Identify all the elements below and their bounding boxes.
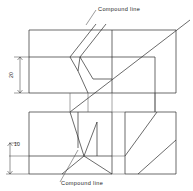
- top-view-compound-edge-c: [70, 57, 78, 71]
- top-view-compound-edge-a: [70, 24, 96, 57]
- dimension-20: 20: [8, 57, 29, 93]
- compound-line-bottom-label: Compound line: [61, 180, 103, 186]
- compound-line-label-top-group: Compound line: [86, 6, 140, 25]
- compound-line-top-label: Compound line: [98, 6, 140, 12]
- top-left-view: [29, 24, 112, 93]
- side-view-compound-edge-a: [125, 112, 157, 156]
- top-view-compound-edge-b: [80, 24, 106, 57]
- orthographic-projection-svg: 20 10 Compound line Compound line: [0, 0, 193, 191]
- top-view-outline: [29, 30, 112, 93]
- bottom-right-view: [125, 112, 176, 174]
- bottom-left-view: [29, 112, 112, 174]
- top-view-compound-edge-e: [80, 57, 93, 79]
- side-view-compound-edge-b: [138, 140, 176, 174]
- dim-20-value: 20: [8, 72, 14, 78]
- compound-line-bottom-leader: [60, 150, 78, 182]
- projection-lines: [70, 93, 155, 174]
- front-view-compound-edge-e: [84, 156, 112, 174]
- front-view-compound-edge-a: [70, 112, 84, 156]
- front-view-outline: [29, 112, 112, 174]
- technical-drawing-canvas: 20 10 Compound line Compound line: [0, 0, 193, 191]
- compound-line-top-leader: [86, 10, 96, 25]
- dimension-10: 10: [6, 141, 29, 174]
- top-view-compound-edge-g: [78, 71, 88, 93]
- front-view-compound-edge-b: [84, 122, 97, 156]
- dim-10-value: 10: [14, 141, 20, 147]
- top-view-compound-edge-d: [78, 57, 80, 71]
